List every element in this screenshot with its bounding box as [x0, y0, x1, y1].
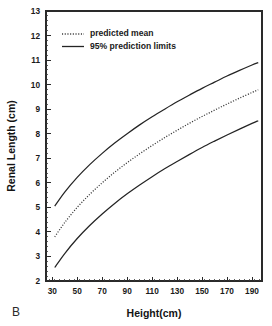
x-tick-label: 50 [73, 286, 83, 296]
x-tick-label: 110 [145, 286, 159, 296]
x-tick-label: 70 [98, 286, 108, 296]
y-tick-label: 3 [35, 251, 40, 261]
y-axis-tick-labels: 2345678910111213 [31, 6, 41, 286]
x-tick-label: 130 [170, 286, 184, 296]
y-tick-label: 11 [31, 55, 40, 65]
y-tick-label: 10 [31, 80, 41, 90]
y-axis-title: Renal Length (cm) [5, 100, 17, 192]
y-tick-label: 6 [35, 178, 40, 188]
chart-legend: predicted mean95% prediction limits [62, 28, 176, 51]
y-tick-label: 2 [35, 276, 40, 286]
x-tick-label: 170 [220, 286, 234, 296]
y-tick-label: 12 [31, 31, 41, 41]
x-axis-tick-labels: 30507090110130150170190 [48, 286, 260, 296]
plot-frame [46, 11, 262, 281]
renal-length-vs-height-chart: 2345678910111213 30507090110130150170190… [0, 0, 272, 326]
legend-label: predicted mean [90, 28, 154, 38]
y-tick-label: 13 [31, 6, 41, 16]
x-tick-label: 90 [123, 286, 133, 296]
x-tick-label: 30 [48, 286, 58, 296]
series-curve-lower-limit [55, 121, 259, 268]
panel-label: B [12, 305, 20, 319]
data-series-group [55, 63, 259, 268]
x-tick-label: 150 [195, 286, 209, 296]
x-axis-ticks [52, 277, 252, 282]
x-tick-label: 190 [245, 286, 259, 296]
legend-label: 95% prediction limits [90, 41, 176, 51]
y-axis-ticks [46, 11, 51, 281]
figure-panel: 2345678910111213 30507090110130150170190… [0, 0, 272, 326]
y-tick-label: 5 [35, 202, 40, 212]
y-tick-label: 7 [35, 153, 40, 163]
series-curve-mean [55, 90, 259, 237]
y-tick-label: 4 [35, 227, 40, 237]
x-axis-title: Height(cm) [127, 307, 182, 319]
y-tick-label: 8 [35, 129, 40, 139]
y-tick-label: 9 [35, 104, 40, 114]
